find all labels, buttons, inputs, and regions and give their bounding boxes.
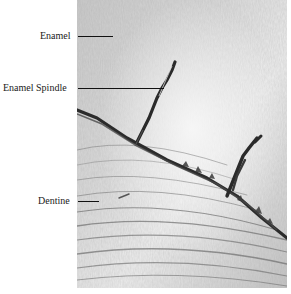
label-enamel: Enamel (40, 31, 71, 41)
leader-line-dentine (78, 201, 99, 202)
label-dentine: Dentine (38, 196, 70, 206)
label-enamel-spindle: Enamel Spindle (3, 83, 67, 93)
leader-line-enamel-spindle (78, 88, 164, 89)
micrograph-figure: Enamel Enamel Spindle Dentine (0, 0, 291, 294)
leader-line-enamel (78, 36, 113, 37)
enamel-dentine-micrograph (77, 0, 287, 288)
